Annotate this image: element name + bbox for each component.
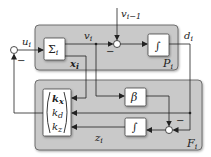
svg-text:β: β [130, 91, 137, 104]
top-sum-junction [114, 41, 121, 48]
signal-v-prev-label: vi−1 [121, 8, 141, 21]
signal-u-label: ui [22, 36, 31, 49]
input-sum-minus-sign: − [17, 55, 25, 66]
sigma-block: Σi [44, 38, 65, 60]
bottom-sum-minus-sign: − [176, 115, 184, 126]
signal-d-label: di [184, 30, 193, 43]
beta-block: β [125, 88, 146, 106]
block-diagram: Pi Fi Σi ∫ β ∫ kx kd kz [0, 0, 211, 157]
svg-text:∫: ∫ [132, 121, 138, 134]
gain-vector-block: kx kd kz [43, 89, 71, 136]
junction-dot-d [189, 112, 192, 115]
top-sum-minus-sign: − [106, 46, 114, 57]
bottom-sum-junction [166, 127, 173, 134]
input-sum-junction [11, 47, 18, 54]
junction-dot-v [95, 43, 98, 46]
integrator-top-block: ∫ [148, 34, 169, 56]
integrator-bottom-block: ∫ [125, 118, 146, 136]
svg-text:∫: ∫ [155, 40, 161, 53]
